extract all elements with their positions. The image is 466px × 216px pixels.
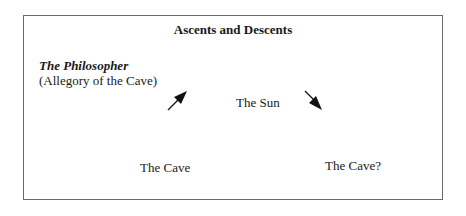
arrows-layer — [0, 0, 466, 216]
arrow-down-right-icon — [305, 91, 322, 110]
arrow-up-right-icon — [168, 91, 187, 110]
